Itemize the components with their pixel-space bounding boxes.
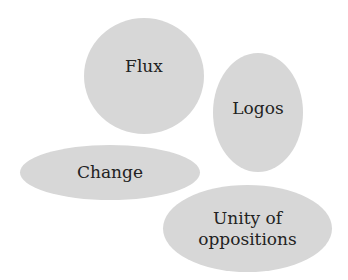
cropped-caption-fragment (0, 0, 348, 4)
bubble-label-unity-of-oppositions: Unity of oppositions (198, 208, 297, 250)
bubble-label-change: Change (77, 162, 143, 183)
bubble-label-logos: Logos (232, 98, 283, 119)
bubble-change: Change (20, 145, 200, 200)
diagram-canvas: Flux Logos Change Unity of oppositions (0, 0, 348, 280)
bubble-unity-of-oppositions: Unity of oppositions (163, 185, 332, 272)
bubble-flux: Flux (84, 18, 204, 134)
bubble-label-flux: Flux (125, 56, 163, 77)
bubble-logos: Logos (213, 53, 303, 172)
